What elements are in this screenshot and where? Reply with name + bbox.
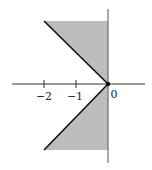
tick-label-zero: 0 (111, 88, 118, 101)
origin-point (106, 82, 110, 86)
tick-label-neg1: −1 (67, 90, 83, 103)
tick-label-neg2: −2 (36, 90, 52, 103)
diagram-canvas: −2 −1 0 (0, 0, 152, 170)
